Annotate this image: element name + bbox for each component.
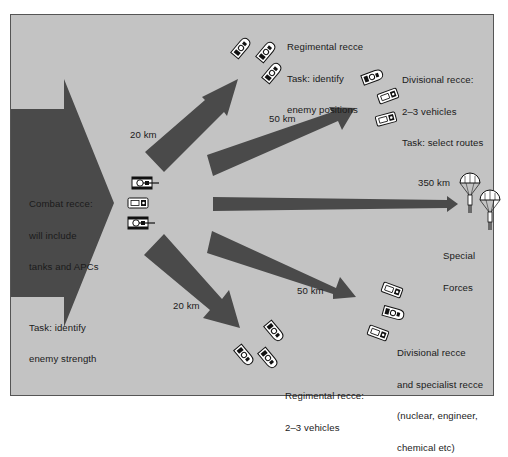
label-line: tanks and APCs [29, 262, 99, 273]
label-line: Combat recce: [29, 199, 99, 210]
recce-vehicle-icon [382, 306, 405, 321]
parachute-icon [480, 190, 500, 230]
apc-icon [367, 325, 389, 341]
label-line: enemy strength [29, 354, 99, 365]
divisional-recce-top-label: Divisional recce: 2–3 vehicles Task: sel… [402, 54, 483, 159]
recce-vehicle-icon [262, 61, 283, 84]
label-line: Regimental recce: [285, 391, 364, 402]
recce-vehicle-icon [258, 347, 279, 370]
divisional-recce-bottom-label: Divisional recce and specialist recce (n… [397, 327, 483, 457]
arrow-lower-right [207, 231, 356, 299]
apc-icon [377, 88, 399, 104]
label-line: Task: identify [287, 74, 363, 85]
apc-icon [375, 112, 397, 127]
label-line: 2–3 vehicles [402, 107, 483, 118]
tank-icon [128, 217, 155, 229]
label-line: will include [29, 231, 99, 242]
distance-label-lower-right: 50 km [297, 286, 324, 297]
tank-icon [132, 177, 159, 189]
label-line: Task: identify [29, 323, 99, 334]
parachute-icon [460, 173, 480, 213]
apc-icon [381, 282, 403, 298]
label-line: enemy positions [287, 105, 363, 116]
recce-vehicle-icon [264, 320, 285, 343]
label-line: Task: select routes [402, 138, 483, 149]
recce-vehicle-icon [256, 40, 277, 63]
label-line: Forces [443, 283, 475, 294]
recce-vehicle-icon [231, 36, 252, 59]
label-line: Regimental recce [287, 42, 363, 53]
distance-label-upper-left: 20 km [130, 130, 157, 141]
combat-recce-label: Combat recce: will include tanks and APC… [29, 178, 99, 375]
distance-label-center: 350 km [418, 178, 450, 189]
label-line: chemical etc) [397, 443, 483, 454]
label-line: (nuclear, engineer, [397, 411, 483, 422]
label-line: and specialist recce [397, 380, 483, 391]
label-line: Divisional recce [397, 348, 483, 359]
label-line: Special [443, 251, 475, 262]
regimental-recce-top-label: Regimental recce Task: identify enemy po… [287, 21, 363, 126]
special-forces-label: Special Forces [443, 230, 475, 304]
label-line: Divisional recce: [402, 75, 483, 86]
apc-icon [128, 198, 148, 208]
label-line: 2–3 vehicles [285, 423, 364, 434]
regimental-recce-bottom-label: Regimental recce: 2–3 vehicles [285, 370, 364, 444]
distance-label-lower-left: 20 km [173, 301, 200, 312]
recce-vehicle-icon [361, 69, 384, 86]
recce-vehicle-icon [234, 344, 255, 367]
arrow-center [213, 196, 458, 212]
